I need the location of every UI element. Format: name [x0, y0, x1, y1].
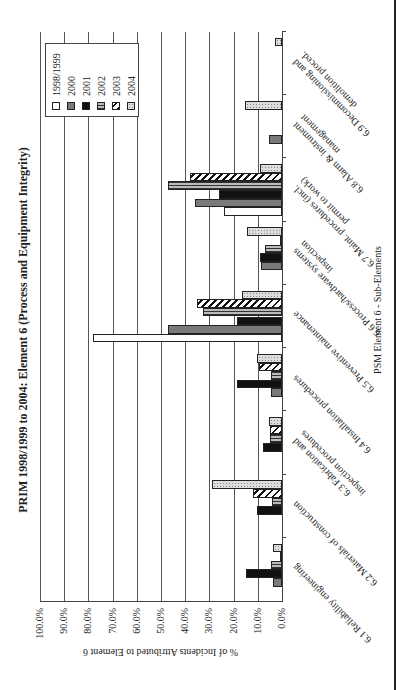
y-tick-label: 30.0%	[203, 608, 214, 650]
x-tick-mark	[282, 347, 286, 348]
bar-2000	[168, 325, 282, 334]
gridline	[113, 32, 114, 601]
bar-2000	[269, 135, 282, 144]
bar-2004	[247, 227, 282, 236]
bar-2004	[245, 101, 283, 110]
bar-2002	[270, 434, 282, 443]
bar-2002	[168, 181, 282, 190]
legend-item: 2001	[79, 50, 93, 110]
bar-2002	[271, 371, 282, 380]
bar-2003	[259, 363, 282, 372]
legend-label: 2002	[96, 76, 107, 96]
y-tick-label: 70.0%	[107, 608, 118, 650]
bar-2000	[271, 388, 282, 397]
bar-2004	[275, 38, 282, 47]
bar-2001	[237, 317, 282, 326]
chart-title: PRIM 1998/1999 to 2004: Element 6 (Proce…	[16, 30, 31, 630]
gridline	[88, 32, 89, 601]
y-tick-label: 0.0%	[276, 608, 287, 650]
legend-label: 2004	[126, 76, 137, 96]
y-tick-label: 80.0%	[82, 608, 93, 650]
bar-2001	[263, 443, 282, 452]
bar-2003	[280, 552, 282, 561]
bar-2003	[253, 489, 282, 498]
x-tick-mark	[282, 410, 286, 411]
legend-label: 2000	[66, 76, 77, 96]
bar-2001	[257, 506, 282, 515]
x-tick-mark	[282, 221, 286, 222]
gridline	[234, 32, 235, 601]
legend: 1998/199920002001200220032004	[45, 43, 139, 117]
gridline	[161, 32, 162, 601]
bar-2003	[190, 173, 282, 182]
gridline	[137, 32, 138, 601]
y-tick-label: 20.0%	[228, 608, 239, 650]
legend-swatch	[52, 102, 60, 110]
bar-2004	[212, 480, 282, 489]
bar-2000	[273, 578, 282, 587]
bar-2002	[203, 308, 282, 317]
y-tick-label: 100.0%	[34, 608, 45, 650]
legend-swatch	[97, 102, 105, 110]
legend-swatch	[112, 102, 120, 110]
legend-item: 2003	[109, 50, 123, 110]
bar-2004	[269, 417, 282, 426]
x-tick-mark	[282, 94, 286, 95]
bar-2003	[197, 299, 282, 308]
gridline	[185, 32, 186, 601]
bar-2000	[195, 199, 282, 208]
y-tick-label: 90.0%	[58, 608, 69, 650]
legend-item: 2002	[94, 50, 108, 110]
y-tick-label: 10.0%	[252, 608, 263, 650]
legend-item: 1998/1999	[49, 50, 63, 110]
y-tick-label: 40.0%	[179, 608, 190, 650]
gridline	[64, 32, 65, 601]
gridline	[209, 32, 210, 601]
bar-2004	[273, 544, 282, 553]
bar-2002	[272, 498, 282, 507]
bar-2002	[271, 561, 282, 570]
legend-item: 2004	[124, 50, 138, 110]
bar-2001	[237, 380, 282, 389]
bar-2002	[265, 245, 282, 254]
legend-label: 2001	[81, 76, 92, 96]
y-tick-label: 50.0%	[155, 608, 166, 650]
legend-swatch	[67, 102, 75, 110]
x-tick-mark	[282, 537, 286, 538]
x-axis-label: PSM Element 6 - Sub-Elements	[372, 230, 383, 390]
bar-2001	[246, 569, 282, 578]
plot-area	[40, 32, 283, 602]
legend-label: 2003	[111, 76, 122, 96]
bar-1998-1999	[93, 334, 282, 343]
bar-2003	[270, 426, 282, 435]
x-tick-mark	[282, 31, 286, 32]
bar-1998-1999	[224, 207, 282, 216]
y-tick-label: 60.0%	[131, 608, 142, 650]
bar-2001	[260, 253, 282, 262]
bar-2004	[242, 291, 282, 300]
bar-2004	[257, 354, 282, 363]
bar-2000	[261, 262, 282, 271]
legend-label: 1998/1999	[51, 53, 62, 96]
rotated-chart: PRIM 1998/1999 to 2004: Element 6 (Proce…	[0, 0, 401, 690]
x-tick-mark	[282, 157, 286, 158]
bar-2001	[219, 190, 282, 199]
legend-item: 2000	[64, 50, 78, 110]
page-edge-line	[394, 0, 396, 690]
legend-swatch	[127, 102, 135, 110]
x-tick-mark	[282, 474, 286, 475]
gridline	[40, 32, 41, 601]
bar-2003	[280, 236, 282, 245]
bar-2004	[260, 164, 282, 173]
legend-swatch	[82, 102, 90, 110]
x-tick-mark	[282, 284, 286, 285]
